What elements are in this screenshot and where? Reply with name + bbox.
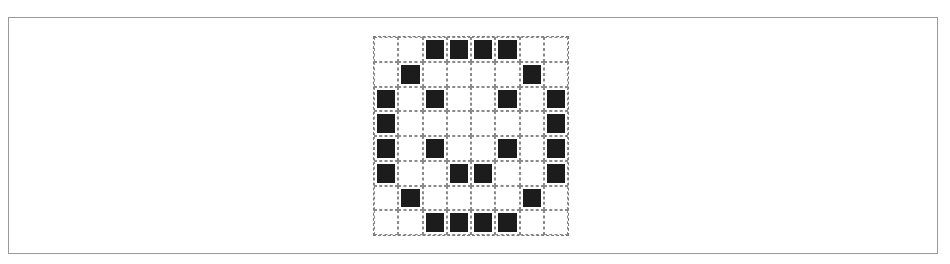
filled-pixel-cell (374, 136, 398, 161)
empty-pixel-cell (471, 186, 495, 211)
empty-pixel-cell (398, 87, 422, 112)
empty-pixel-cell (398, 37, 422, 62)
empty-pixel-cell (520, 161, 544, 186)
filled-pixel-cell (447, 210, 471, 235)
filled-pixel-cell (495, 136, 519, 161)
empty-pixel-cell (423, 161, 447, 186)
empty-pixel-cell (544, 37, 568, 62)
filled-pixel-cell (423, 87, 447, 112)
empty-pixel-cell (520, 210, 544, 235)
empty-pixel-cell (423, 62, 447, 87)
empty-pixel-cell (374, 186, 398, 211)
empty-pixel-cell (423, 186, 447, 211)
filled-pixel-cell (544, 136, 568, 161)
empty-pixel-cell (447, 111, 471, 136)
filled-pixel-cell (520, 186, 544, 211)
filled-pixel-cell (471, 161, 495, 186)
empty-pixel-cell (520, 136, 544, 161)
empty-pixel-cell (520, 111, 544, 136)
empty-pixel-cell (520, 37, 544, 62)
filled-pixel-cell (495, 210, 519, 235)
empty-pixel-cell (398, 210, 422, 235)
empty-pixel-cell (471, 136, 495, 161)
empty-pixel-cell (471, 111, 495, 136)
empty-pixel-cell (398, 161, 422, 186)
empty-pixel-cell (471, 62, 495, 87)
empty-pixel-cell (447, 87, 471, 112)
filled-pixel-cell (374, 87, 398, 112)
filled-pixel-cell (423, 136, 447, 161)
empty-pixel-cell (544, 186, 568, 211)
empty-pixel-cell (374, 62, 398, 87)
empty-pixel-cell (471, 87, 495, 112)
filled-pixel-cell (544, 111, 568, 136)
empty-pixel-cell (374, 210, 398, 235)
filled-pixel-cell (423, 210, 447, 235)
filled-pixel-cell (520, 62, 544, 87)
filled-pixel-cell (544, 87, 568, 112)
empty-pixel-cell (544, 62, 568, 87)
filled-pixel-cell (398, 62, 422, 87)
empty-pixel-cell (495, 161, 519, 186)
filled-pixel-cell (495, 87, 519, 112)
filled-pixel-cell (374, 161, 398, 186)
empty-pixel-cell (423, 111, 447, 136)
filled-pixel-cell (447, 161, 471, 186)
empty-pixel-cell (447, 62, 471, 87)
filled-pixel-cell (471, 37, 495, 62)
filled-pixel-cell (495, 37, 519, 62)
filled-pixel-cell (471, 210, 495, 235)
empty-pixel-cell (447, 186, 471, 211)
empty-pixel-cell (398, 111, 422, 136)
filled-pixel-cell (398, 186, 422, 211)
empty-pixel-cell (495, 111, 519, 136)
empty-pixel-cell (447, 136, 471, 161)
filled-pixel-cell (374, 111, 398, 136)
filled-pixel-cell (423, 37, 447, 62)
filled-pixel-cell (544, 161, 568, 186)
empty-pixel-cell (374, 37, 398, 62)
empty-pixel-cell (544, 210, 568, 235)
smiley-pixel-grid (373, 36, 569, 236)
empty-pixel-cell (520, 87, 544, 112)
filled-pixel-cell (447, 37, 471, 62)
empty-pixel-cell (495, 62, 519, 87)
empty-pixel-cell (398, 136, 422, 161)
empty-pixel-cell (495, 186, 519, 211)
